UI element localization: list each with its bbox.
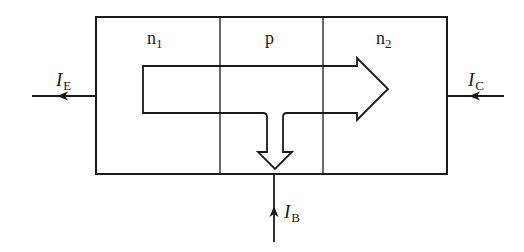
emitter-current-label: IE: [55, 69, 71, 93]
collector-current-label: IC: [467, 69, 484, 93]
transistor-diagram: n1 p n2 IE IC IB: [0, 0, 524, 252]
base-current-label: IB: [283, 201, 300, 225]
electron-flow-arrow: [143, 58, 388, 169]
region-label-p: p: [265, 28, 274, 48]
region-label-n2: n2: [376, 28, 392, 51]
region-label-n1: n1: [147, 28, 163, 51]
